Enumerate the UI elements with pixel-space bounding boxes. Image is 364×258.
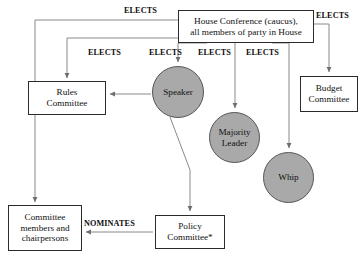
rules-committee-line2: Committee [47, 98, 88, 108]
edge-conference-to-whip [272, 43, 289, 148]
node-budget-committee[interactable]: Budget Committee [300, 76, 358, 112]
policy-committee-line1: Policy [178, 221, 201, 231]
house-party-organization-diagram: House Conference (caucus), all members o… [0, 0, 364, 258]
node-whip[interactable]: Whip [263, 152, 314, 203]
committee-members-line2: members and [20, 223, 69, 233]
node-rules-committee[interactable]: Rules Committee [28, 81, 106, 115]
node-majority-leader[interactable]: Majority Leader [209, 112, 260, 163]
edge-label-elects-majority-leader: ELECTS [198, 48, 231, 57]
house-conference-line2: all members of party in House [190, 27, 302, 37]
edge-label-elects-committee-members: ELECTS [124, 6, 157, 15]
whip-label: Whip [278, 172, 298, 183]
edge-label-nominates: NOMINATES [84, 219, 135, 228]
majority-leader-line2: Leader [222, 138, 248, 148]
edge-label-elects-budget-committee: ELECTS [316, 11, 349, 20]
rules-committee-line1: Rules [57, 87, 78, 97]
node-committee-members-and-chairpersons[interactable]: Committee members and chairpersons [8, 205, 82, 251]
node-house-conference[interactable]: House Conference (caucus), all members o… [178, 10, 314, 43]
node-speaker[interactable]: Speaker [152, 66, 204, 118]
edge-label-elects-rules-committee: ELECTS [88, 48, 121, 57]
policy-committee-line2: Committee* [167, 232, 212, 242]
edge-label-elects-whip: ELECTS [246, 48, 279, 57]
committee-members-line1: Committee [25, 212, 66, 222]
budget-committee-line2: Committee [309, 94, 350, 104]
house-conference-line1: House Conference (caucus), [194, 16, 298, 26]
node-policy-committee[interactable]: Policy Committee* [155, 215, 225, 249]
edge-label-elects-speaker: ELECTS [149, 48, 182, 57]
edge-conference-to-budget-committee [314, 24, 329, 72]
committee-members-line3: chairpersons [22, 233, 68, 243]
edge-speaker-to-policy-committee [170, 117, 190, 211]
majority-leader-line1: Majority [218, 127, 250, 137]
speaker-label: Speaker [163, 87, 193, 98]
budget-committee-line1: Budget [316, 83, 343, 93]
